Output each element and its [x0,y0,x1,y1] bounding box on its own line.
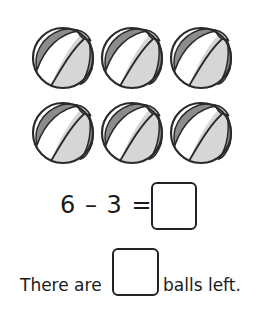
equation-text: 6 – 3 = [60,191,153,219]
beach-ball-icon [100,100,164,166]
sentence-suffix: balls left. [163,275,241,295]
beach-ball-icon [100,25,164,91]
equation-answer-box[interactable] [151,182,197,230]
answer-sentence: There are balls left. [0,248,257,296]
beach-ball-icon [31,100,95,166]
sentence-answer-box[interactable] [112,248,159,296]
beach-ball-icon [169,100,233,166]
beach-ball-icon [169,25,233,91]
sentence-prefix: There are [20,275,102,295]
beach-ball-icon [31,25,95,91]
subtraction-equation: 6 – 3 = [0,182,257,230]
